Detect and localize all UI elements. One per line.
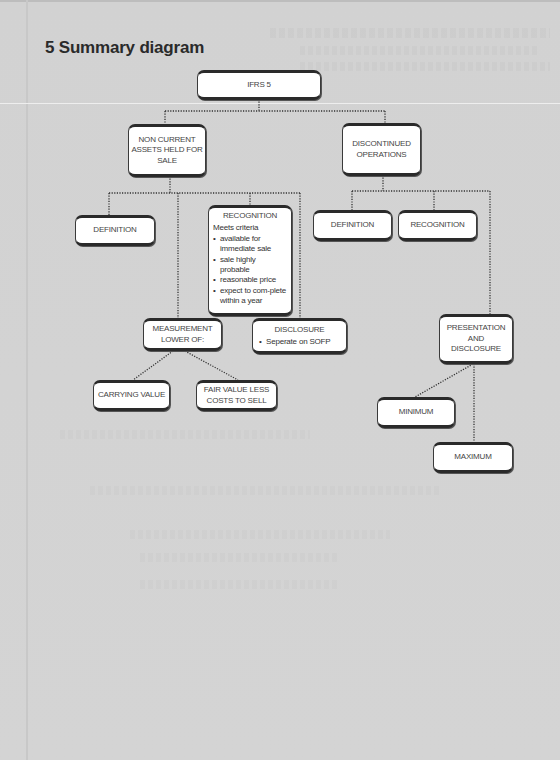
bleed-through-text [270, 28, 550, 38]
node-definition-assets: DEFINITION [75, 215, 155, 246]
node-label-line: NON CURRENT [139, 135, 196, 145]
scanned-page: 5 Summary diagram IFRS 5 NON CURRENT ASS… [0, 0, 560, 760]
node-fair-value-less-costs: FAIR VALUE LESS COSTS TO SELL [196, 380, 277, 411]
node-heading: DISCLOSURE [259, 325, 340, 335]
bleed-through-text [140, 580, 340, 589]
bleed-through-text [90, 486, 440, 495]
node-label: DEFINITION [331, 220, 374, 230]
node-definition-discontinued: DEFINITION [313, 210, 392, 241]
criteria-item: expect to com-plete within a year [213, 286, 287, 307]
node-heading: RECOGNITION [213, 211, 287, 221]
bleed-through-text [300, 46, 540, 55]
bleed-through-text [140, 553, 340, 562]
node-label-line: ASSETS HELD FOR [131, 145, 202, 155]
node-label-line: SALE [157, 156, 177, 166]
node-measurement: MEASUREMENT LOWER OF: [143, 318, 222, 351]
node-minimum: MINIMUM [377, 397, 455, 428]
disclosure-item: Seperate on SOFP [259, 337, 340, 347]
node-label-line: PRESENTATION [447, 323, 506, 333]
node-subtitle: Meets criteria [213, 223, 287, 233]
node-label: CARRYING VALUE [98, 390, 165, 400]
recognition-criteria-list: available for immediate sale sale highly… [213, 234, 287, 307]
bleed-through-text [130, 530, 390, 539]
node-ifrs5-label: IFRS 5 [247, 80, 271, 90]
node-discontinued-operations: DISCONTINUED OPERATIONS [342, 123, 421, 176]
criteria-item: reasonable price [213, 275, 287, 285]
node-label-line: MEASUREMENT [152, 324, 212, 334]
node-carrying-value: CARRYING VALUE [93, 380, 170, 411]
node-label-line: LOWER OF: [161, 335, 204, 345]
node-ifrs5: IFRS 5 [197, 70, 321, 100]
node-maximum: MAXIMUM [433, 442, 513, 473]
node-label-line: COSTS TO SELL [207, 396, 267, 406]
node-label: DEFINITION [93, 225, 136, 235]
node-label: MAXIMUM [454, 452, 491, 462]
bleed-through-text [300, 62, 550, 71]
connector-lines [0, 0, 560, 760]
node-label-line: DISCLOSURE [451, 344, 501, 354]
node-presentation-disclosure: PRESENTATION AND DISCLOSURE [439, 314, 513, 364]
section-title: 5 Summary diagram [45, 38, 204, 58]
disclosure-list: Seperate on SOFP [259, 337, 340, 347]
node-label-line: DISCONTINUED [352, 139, 411, 149]
node-disclosure-assets: DISCLOSURE Seperate on SOFP [252, 318, 347, 354]
page-top-edge [0, 0, 560, 2]
bleed-through-text [60, 430, 310, 439]
page-fold-line [26, 0, 28, 760]
criteria-item: available for immediate sale [213, 234, 287, 255]
node-label-line: AND [468, 334, 484, 344]
node-recognition-discontinued: RECOGNITION [398, 210, 477, 241]
node-non-current-assets: NON CURRENT ASSETS HELD FOR SALE [128, 124, 206, 177]
node-label: RECOGNITION [410, 220, 464, 230]
criteria-item: sale highly probable [213, 255, 287, 276]
scan-artifact-line [0, 103, 560, 104]
node-label-line: OPERATIONS [357, 150, 407, 160]
node-label-line: FAIR VALUE LESS [204, 385, 269, 395]
node-recognition-assets: RECOGNITION Meets criteria available for… [208, 205, 292, 316]
node-label: MINIMUM [399, 407, 434, 417]
